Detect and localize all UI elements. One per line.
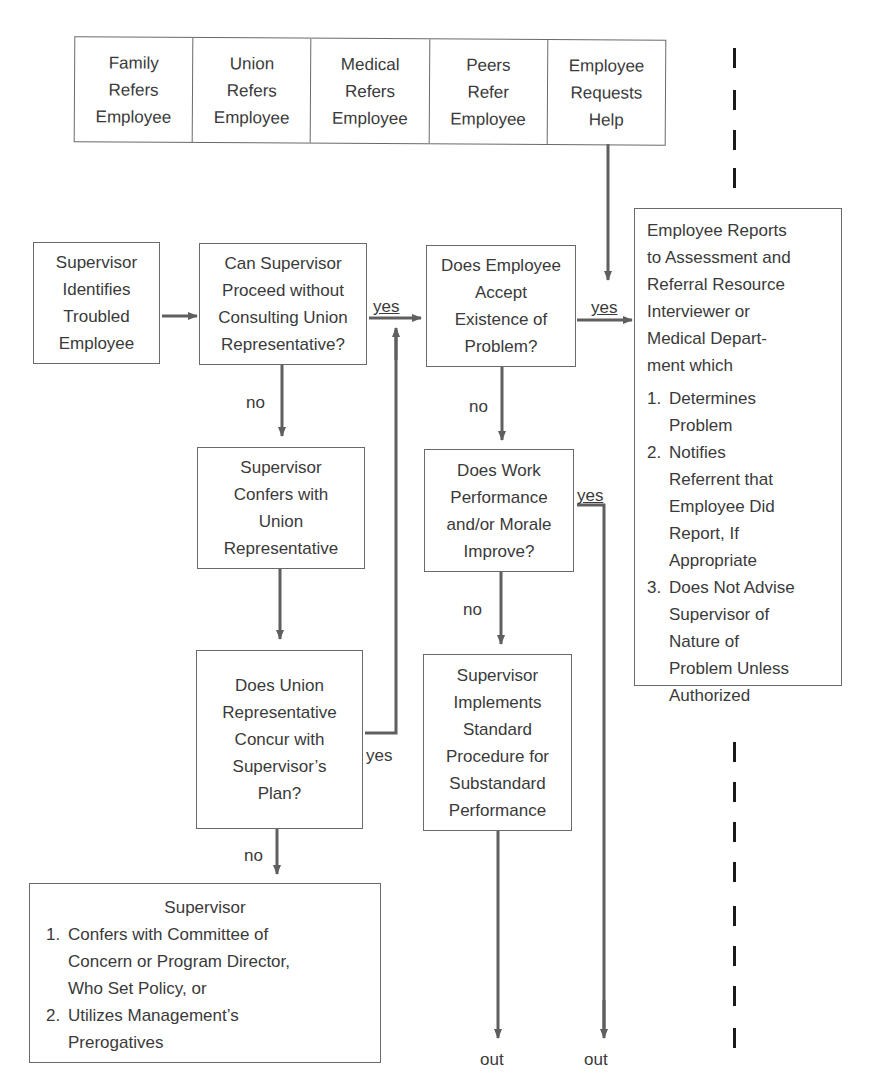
node-text: Determines	[669, 385, 795, 412]
list-number: 2.	[46, 1002, 60, 1029]
node-can-supervisor-proceed[interactable]: Can Supervisor Proceed without Consultin…	[199, 243, 367, 365]
node-performance-improves[interactable]: Does Work Performance and/or Morale Impr…	[424, 449, 574, 572]
node-text: Utilizes Management’s	[68, 1002, 290, 1029]
node-supervisor-confers-union[interactable]: Supervisor Confers with Union Representa…	[197, 447, 365, 569]
node-text: Notifies	[669, 439, 795, 466]
node-text: Who Set Policy, or	[68, 975, 290, 1002]
list-number: 2.	[647, 439, 661, 466]
node-text: Interviewer or	[647, 298, 750, 325]
node-text: Referral Resource	[647, 271, 785, 298]
node-peers-refer[interactable]: Peers Refer Employee	[429, 39, 548, 144]
node-text: Improve?	[464, 538, 535, 565]
node-text: Does Not Advise	[669, 574, 795, 601]
node-text: Problem	[669, 412, 795, 439]
list-item: 2. Utilizes Management’s Prerogatives	[46, 1002, 290, 1056]
edge-label-proceed-yes: yes	[373, 297, 399, 317]
node-assessment-referral[interactable]: Employee Reports to Assessment and Refer…	[634, 208, 842, 686]
assessment-list: 1. Determines Problem 2. Notifies Referr…	[647, 385, 795, 709]
list-item: 1. Determines Problem	[647, 385, 795, 439]
node-text: Report, If	[669, 520, 795, 547]
node-text: Supervisor’s	[233, 753, 327, 780]
referral-sources-row: Family Refers Employee Union Refers Empl…	[74, 36, 667, 146]
supervisor-options-list: 1. Confers with Committee of Concern or …	[46, 921, 290, 1056]
node-text: Accept	[475, 279, 527, 306]
node-text: Supervisor	[56, 249, 137, 276]
node-text: Can Supervisor	[224, 250, 341, 277]
node-medical-refers[interactable]: Medical Refers Employee	[311, 39, 430, 144]
node-text: Union	[230, 50, 275, 77]
node-text: Refers	[227, 77, 277, 104]
node-text: Proceed without	[222, 277, 344, 304]
node-employee-requests-help[interactable]: Employee Requests Help	[547, 40, 665, 145]
node-text: Supervisor of	[669, 601, 795, 628]
node-text: Existence of	[455, 306, 548, 333]
node-text: Family	[109, 49, 159, 76]
edge-label-proceed-no: no	[246, 393, 265, 413]
node-family-refers[interactable]: Family Refers Employee	[75, 37, 194, 142]
edge-label-concur-no: no	[244, 846, 263, 866]
node-text: Confers with Committee of	[68, 921, 290, 948]
node-text: Medical Depart-	[647, 325, 767, 352]
node-supervisor-options[interactable]: Supervisor 1. Confers with Committee of …	[29, 883, 381, 1063]
node-text: Procedure for	[446, 743, 549, 770]
node-text: Does Union	[235, 672, 324, 699]
node-text: Employee	[59, 330, 135, 357]
node-supervisor-identifies[interactable]: Supervisor Identifies Troubled Employee	[33, 242, 160, 364]
list-number: 1.	[46, 921, 60, 948]
node-text: ment which	[647, 352, 733, 379]
node-union-concurs[interactable]: Does Union Representative Concur with Su…	[196, 650, 363, 829]
node-text: Refer	[467, 78, 509, 105]
line-concur-yes	[365, 330, 396, 733]
edge-label-out-standard: out	[480, 1050, 504, 1070]
node-text: Confers with	[234, 481, 328, 508]
node-text: Performance	[449, 797, 546, 824]
node-text: Peers	[466, 51, 511, 78]
node-text: Help	[589, 106, 624, 133]
node-text: Concur with	[235, 726, 325, 753]
node-title: Supervisor	[164, 894, 245, 921]
edge-label-out-improve: out	[584, 1050, 608, 1070]
node-text: Prerogatives	[68, 1029, 290, 1056]
edge-label-concur-yes: yes	[366, 746, 392, 766]
node-text: Refers	[108, 76, 158, 103]
node-text: Problem Unless	[669, 655, 795, 682]
node-text: and/or Morale	[447, 511, 552, 538]
node-union-refers[interactable]: Union Refers Employee	[193, 38, 312, 143]
node-text: Representative?	[221, 331, 345, 358]
edge-label-accept-no: no	[469, 397, 488, 417]
node-text: Representative	[224, 535, 338, 562]
node-text: Employee	[332, 104, 408, 131]
node-text: Consulting Union	[218, 304, 347, 331]
node-text: Does Work	[457, 457, 541, 484]
node-text: Supervisor	[457, 662, 538, 689]
node-text: Appropriate	[669, 547, 795, 574]
node-standard-procedure[interactable]: Supervisor Implements Standard Procedure…	[423, 654, 572, 831]
node-text: Authorized	[669, 682, 795, 709]
node-text: Plan?	[258, 780, 301, 807]
node-text: Performance	[450, 484, 547, 511]
node-text: Does Employee	[441, 252, 561, 279]
node-text: Substandard	[449, 770, 545, 797]
edge-label-improve-yes: yes	[577, 486, 603, 506]
line-improve-yes	[577, 505, 604, 1030]
list-item: 1. Confers with Committee of Concern or …	[46, 921, 290, 1002]
node-text: Supervisor	[240, 454, 321, 481]
list-item: 3. Does Not Advise Supervisor of Nature …	[647, 574, 795, 709]
node-text: Employee	[450, 105, 526, 132]
node-text: Representative	[222, 699, 336, 726]
node-text: Employee Reports	[647, 217, 787, 244]
node-text: Identifies	[62, 276, 130, 303]
node-text: Employee	[569, 52, 645, 79]
node-text: Employee	[214, 104, 290, 131]
edge-label-accept-yes: yes	[591, 298, 617, 318]
node-text: to Assessment and	[647, 244, 791, 271]
node-text: Implements	[454, 689, 542, 716]
node-text: Troubled	[63, 303, 129, 330]
node-text: Employee Did	[669, 493, 795, 520]
node-text: Union	[259, 508, 303, 535]
node-text: Standard	[463, 716, 532, 743]
node-text: Concern or Program Director,	[68, 948, 290, 975]
node-text: Requests	[570, 79, 642, 106]
node-text: Employee	[96, 103, 172, 130]
node-employee-accepts-problem[interactable]: Does Employee Accept Existence of Proble…	[426, 245, 576, 367]
